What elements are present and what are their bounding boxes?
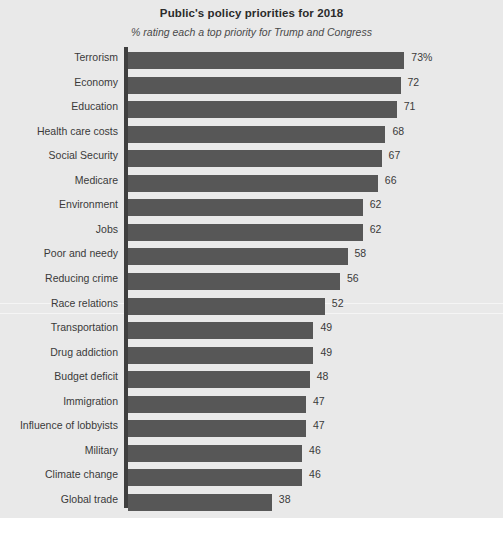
category-label: Poor and needy bbox=[0, 247, 118, 259]
category-label: Environment bbox=[0, 198, 118, 210]
bar-value-label: 48 bbox=[317, 370, 329, 382]
bar-value-label: 47 bbox=[313, 419, 325, 431]
bar-row: Transportation49 bbox=[0, 317, 503, 342]
bar-value-label: 72 bbox=[408, 76, 420, 88]
bar bbox=[128, 445, 302, 462]
category-label: Immigration bbox=[0, 395, 118, 407]
category-label: Military bbox=[0, 444, 118, 456]
bar-row: Military46 bbox=[0, 440, 503, 465]
bar-row: Economy72 bbox=[0, 72, 503, 97]
bar bbox=[128, 420, 306, 437]
bar-value-label: 71 bbox=[404, 100, 416, 112]
bar bbox=[128, 322, 313, 339]
category-label: Economy bbox=[0, 76, 118, 88]
bar-row: Jobs62 bbox=[0, 219, 503, 244]
bar bbox=[128, 224, 363, 241]
chart-surface: Public's policy priorities for 2018 % ra… bbox=[0, 0, 503, 518]
bar-row: Education71 bbox=[0, 96, 503, 121]
bar bbox=[128, 126, 385, 143]
bar bbox=[128, 494, 272, 511]
chart-page: Public's policy priorities for 2018 % ra… bbox=[0, 0, 503, 539]
chart-subtitle: % rating each a top priority for Trump a… bbox=[0, 26, 503, 38]
bar-value-label: 58 bbox=[355, 247, 367, 259]
bar-value-label: 67 bbox=[389, 149, 401, 161]
bar bbox=[128, 199, 363, 216]
bar bbox=[128, 396, 306, 413]
bar-value-label: 46 bbox=[309, 468, 321, 480]
category-label: Race relations bbox=[0, 297, 118, 309]
bar-row: Medicare66 bbox=[0, 170, 503, 195]
bar-value-label: 56 bbox=[347, 272, 359, 284]
bar-row: Health care costs68 bbox=[0, 121, 503, 146]
category-label: Health care costs bbox=[0, 125, 118, 137]
bar-row: Terrorism73% bbox=[0, 47, 503, 72]
bar-row: Poor and needy58 bbox=[0, 243, 503, 268]
bar bbox=[128, 77, 401, 94]
bar-value-label: 47 bbox=[313, 395, 325, 407]
page-bottom-margin bbox=[0, 518, 503, 539]
bar-row: Global trade38 bbox=[0, 489, 503, 514]
chart-title: Public's policy priorities for 2018 bbox=[0, 7, 503, 19]
category-label: Reducing crime bbox=[0, 272, 118, 284]
bar bbox=[128, 52, 404, 69]
bar-row: Environment62 bbox=[0, 194, 503, 219]
category-label: Jobs bbox=[0, 223, 118, 235]
category-label: Global trade bbox=[0, 493, 118, 505]
category-label: Medicare bbox=[0, 174, 118, 186]
bar-row: Influence of lobbyists47 bbox=[0, 415, 503, 440]
bar bbox=[128, 298, 325, 315]
bar-row: Immigration47 bbox=[0, 391, 503, 416]
bar bbox=[128, 469, 302, 486]
bar-row: Drug addiction49 bbox=[0, 342, 503, 367]
bar-value-label: 38 bbox=[279, 493, 291, 505]
bar-row: Race relations52 bbox=[0, 293, 503, 318]
category-label: Terrorism bbox=[0, 51, 118, 63]
bar-row: Social Security67 bbox=[0, 145, 503, 170]
bar bbox=[128, 101, 397, 118]
category-label: Drug addiction bbox=[0, 346, 118, 358]
bar bbox=[128, 248, 348, 265]
category-label: Climate change bbox=[0, 468, 118, 480]
bar-row: Budget deficit48 bbox=[0, 366, 503, 391]
bar bbox=[128, 273, 340, 290]
bar bbox=[128, 371, 310, 388]
bar bbox=[128, 175, 378, 192]
bar-value-label: 62 bbox=[370, 223, 382, 235]
bar-value-label: 52 bbox=[332, 297, 344, 309]
bar-row: Reducing crime56 bbox=[0, 268, 503, 293]
bar bbox=[128, 347, 313, 364]
bar-row: Climate change46 bbox=[0, 464, 503, 489]
bar-value-label: 66 bbox=[385, 174, 397, 186]
bar-value-label: 49 bbox=[320, 321, 332, 333]
category-label: Transportation bbox=[0, 321, 118, 333]
bar-value-label: 62 bbox=[370, 198, 382, 210]
bar bbox=[128, 150, 382, 167]
bar-value-label: 49 bbox=[320, 346, 332, 358]
category-label: Social Security bbox=[0, 149, 118, 161]
category-label: Education bbox=[0, 100, 118, 112]
bar-value-label: 68 bbox=[392, 125, 404, 137]
bar-value-label: 73% bbox=[411, 51, 432, 63]
plot-area: Terrorism73%Economy72Education71Health c… bbox=[0, 47, 503, 512]
bar-value-label: 46 bbox=[309, 444, 321, 456]
category-label: Influence of lobbyists bbox=[0, 419, 118, 431]
category-label: Budget deficit bbox=[0, 370, 118, 382]
